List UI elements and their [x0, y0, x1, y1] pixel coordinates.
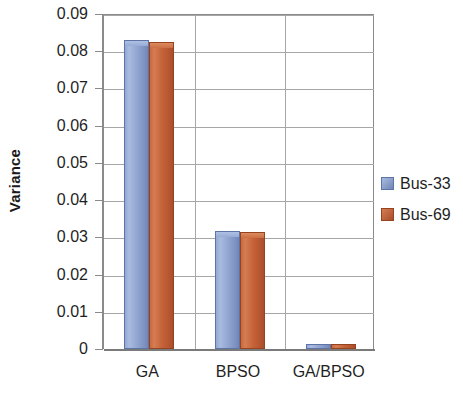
bar-chart: Variance 00.010.020.030.040.050.060.070.…	[0, 0, 463, 402]
legend-label: Bus-33	[400, 175, 451, 193]
y-axis-tick-mark	[95, 275, 103, 276]
y-axis-tick-label: 0.01	[57, 304, 88, 320]
y-axis-tick-label: 0.09	[57, 6, 88, 22]
y-axis-tick-label: 0.07	[57, 80, 88, 96]
chart-legend: Bus-33Bus-69	[381, 168, 461, 230]
plot-area	[102, 14, 374, 349]
bar-top-cap	[149, 42, 174, 48]
bar-group	[195, 15, 286, 349]
y-axis-tick-mark	[95, 349, 103, 350]
y-axis-tick-mark	[95, 126, 103, 127]
y-axis-tick-label: 0.05	[57, 155, 88, 171]
bar-ga-bpso-bus-69[interactable]	[331, 344, 356, 349]
bar-top-cap	[215, 231, 240, 237]
y-axis-title-text: Variance	[7, 148, 24, 211]
x-axis-tick-label: GA	[102, 362, 193, 381]
bar-bpso-bus-69[interactable]	[240, 232, 265, 349]
bar-ga-bpso-bus-33[interactable]	[306, 344, 331, 349]
bar-bpso-bus-33[interactable]	[215, 231, 240, 349]
y-axis-tick-label: 0.06	[57, 118, 88, 134]
y-axis-tick-label: 0.02	[57, 267, 88, 283]
bar-group	[104, 15, 195, 349]
x-axis-tick-label: BPSO	[193, 362, 284, 381]
legend-swatch-icon	[381, 177, 394, 190]
y-axis-tick-mark	[95, 51, 103, 52]
x-axis-tick-label: GA/BPSO	[283, 362, 374, 381]
y-axis-tick-mark	[95, 237, 103, 238]
y-axis-tick-mark	[95, 200, 103, 201]
bar-ga-bus-33[interactable]	[124, 40, 149, 349]
legend-item-bus-33[interactable]: Bus-33	[381, 168, 461, 199]
legend-swatch-icon	[381, 208, 394, 221]
y-axis-tick-mark	[95, 163, 103, 164]
y-axis-tick-label: 0.03	[57, 229, 88, 245]
y-axis-tick-mark	[95, 88, 103, 89]
bar-top-cap	[240, 232, 265, 238]
y-axis-tick-label: 0.08	[57, 43, 88, 59]
y-axis-tick-mark	[95, 312, 103, 313]
legend-item-bus-69[interactable]: Bus-69	[381, 199, 461, 230]
y-axis-tick-label: 0.04	[57, 192, 88, 208]
y-axis-tick-labels: 00.010.020.030.040.050.060.070.080.09	[28, 14, 94, 349]
bar-group	[285, 15, 376, 349]
y-axis-title: Variance	[2, 0, 28, 360]
x-axis-tick-labels: GABPSOGA/BPSO	[102, 362, 374, 392]
y-axis-tick-label: 0	[79, 341, 88, 357]
y-axis-tick-mark	[95, 14, 103, 15]
bar-top-cap	[124, 40, 149, 46]
legend-label: Bus-69	[400, 206, 451, 224]
bar-ga-bus-69[interactable]	[149, 42, 174, 349]
